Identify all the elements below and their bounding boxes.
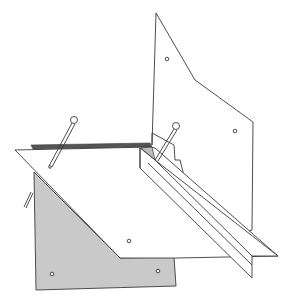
pin-left-small: [24, 192, 33, 208]
hole: [233, 129, 237, 133]
hole: [165, 57, 169, 61]
hole: [127, 239, 131, 243]
paper-sheets-illustration: [0, 0, 284, 297]
hole: [156, 269, 160, 273]
hole: [50, 272, 54, 276]
